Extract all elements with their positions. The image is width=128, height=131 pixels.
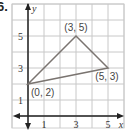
y-axis-label: y (31, 3, 37, 14)
x-tick-label: 3 (74, 119, 79, 130)
x-tick-label: 1 (42, 119, 47, 130)
x-tick-label: 5 (106, 119, 111, 130)
y-tick-label: 5 (18, 31, 23, 42)
y-tick-label: 3 (18, 63, 23, 74)
point-label: (5, 3) (95, 71, 118, 82)
point-label: (0, 2) (31, 87, 54, 98)
x-axis-label: x (118, 119, 124, 130)
y-tick-label: 1 (18, 95, 23, 106)
point-label: (3, 5) (64, 22, 87, 33)
coordinate-plane: 135135xy (0, 2)(3, 5)(5, 3) (0, 0, 128, 131)
